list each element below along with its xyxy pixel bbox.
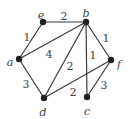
node-label-b: b — [82, 7, 89, 20]
edge-weight-d-f: 2 — [70, 86, 77, 99]
edge-b-c — [86, 22, 87, 97]
edge-weight-c-f: 3 — [101, 79, 108, 92]
edge-weight-a-b: 4 — [46, 48, 53, 61]
edge-weight-e-b: 2 — [61, 10, 68, 23]
node-c — [84, 94, 90, 100]
node-label-c: c — [84, 105, 90, 118]
edge-weight-b-f: 1 — [103, 32, 110, 45]
edge-weight-a-e: 1 — [24, 31, 31, 44]
edge-weight-b-d: 2 — [67, 60, 74, 73]
node-a — [16, 56, 22, 62]
edge-weight-b-c: 1 — [90, 49, 97, 62]
graph-canvas: 214211323 ebafdc — [0, 0, 133, 119]
node-label-f: f — [116, 58, 123, 71]
edges-layer — [19, 22, 111, 98]
node-b — [83, 19, 89, 25]
weighted-graph-diagram: 214211323 ebafdc — [0, 0, 133, 119]
node-f — [108, 57, 114, 63]
node-label-e: e — [38, 9, 45, 22]
node-label-a: a — [7, 56, 14, 69]
edge-weight-a-d: 3 — [23, 78, 30, 91]
node-label-d: d — [39, 106, 46, 119]
node-d — [41, 95, 47, 101]
